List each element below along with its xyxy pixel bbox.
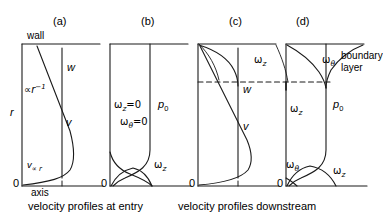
omega-subscript-z: z	[162, 164, 166, 173]
panel-d-omega-z-top-label: ωz	[254, 55, 266, 68]
panel-a-origin-label: 0	[13, 178, 19, 190]
wall-label: wall	[27, 31, 44, 42]
omega-equals-zero: =0	[126, 99, 141, 110]
panel-b-omega-theta-zero-label: ωθ=0	[120, 117, 148, 130]
panel-letter-b: (b)	[141, 16, 154, 28]
panel-a-v-prop-r-label: v∝ r	[27, 160, 42, 173]
panel-d-omega-theta-top-label: ωθ	[322, 55, 335, 68]
panel-letter-d: (d)	[296, 16, 309, 28]
panel-b-omega-z-zero-label: ωz=0	[114, 100, 141, 113]
panel-b-origin-label: 0	[101, 178, 107, 190]
panel-a-v-label: v	[66, 117, 72, 129]
panel-a-v-prop-r-inverse-label: ∝r−1	[24, 84, 46, 96]
p0-subscript: 0	[339, 104, 343, 113]
panel-d-origin-label: 0	[277, 178, 283, 190]
panel-letter-c: (c)	[229, 16, 242, 28]
panel-a-w-label: w	[67, 62, 75, 74]
omega-equals-zero: =0	[133, 116, 148, 127]
omega-subscript-z: z	[298, 108, 302, 117]
panel-d-omega-z-mid-label: ωz	[290, 104, 302, 117]
panel-c-v-profile	[199, 46, 251, 185]
boundary-layer-label-line1: boundary	[341, 50, 383, 62]
p0-subscript: 0	[164, 104, 168, 113]
prop-exponent: −1	[35, 83, 45, 91]
panel-b-p0-profile	[113, 44, 150, 186]
panel-b-omega-z-label: ωz	[154, 160, 166, 173]
omega-subscript-z: z	[341, 170, 345, 179]
panel-c-w-label: w	[243, 84, 251, 96]
omega-subscript-z: z	[262, 59, 266, 68]
caption-right: velocity profiles downstream	[178, 201, 316, 213]
r-axis-label: r	[10, 107, 14, 119]
caption-left: velocity profiles at entry	[28, 201, 143, 213]
panel-b-p0-label: p0	[158, 99, 168, 113]
panel-c-v-label: v	[243, 121, 249, 133]
omega-subscript-theta: θ	[294, 164, 299, 173]
boundary-layer-label-line2: layer	[341, 62, 363, 74]
panel-d-omega-theta-bottom-label: ωθ	[286, 160, 299, 173]
panel-d-omega-z-bottom-label: ωz	[333, 166, 345, 179]
panel-c-origin-label: 0	[189, 178, 195, 190]
panel-letter-a: (a)	[53, 16, 66, 28]
panel-b-omega-z-profile	[111, 168, 152, 186]
axis-label: axis	[31, 188, 49, 199]
v-prop-subscript: ∝ r	[32, 165, 42, 173]
omega-subscript-theta: θ	[330, 59, 335, 68]
panel-d-p0-label: p0	[333, 99, 343, 113]
